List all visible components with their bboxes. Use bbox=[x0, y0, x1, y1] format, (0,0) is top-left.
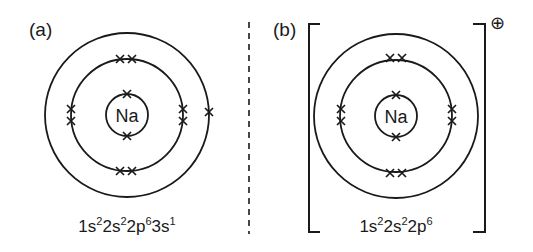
config-superscript: 2 bbox=[120, 215, 126, 227]
config-superscript: 2 bbox=[96, 215, 102, 227]
config-term: 2s bbox=[383, 217, 401, 236]
panel-a-nucleus-label: Na bbox=[115, 107, 138, 125]
electron-x-icon bbox=[386, 169, 394, 177]
config-superscript: 2 bbox=[377, 215, 383, 227]
config-term: 3s bbox=[152, 217, 170, 236]
config-term: 2p bbox=[408, 217, 427, 236]
panel-b-configuration: 1s22s22p6 bbox=[359, 218, 432, 235]
config-term: 1s bbox=[359, 217, 377, 236]
panel-a-label: (a) bbox=[29, 20, 52, 39]
config-superscript: 2 bbox=[401, 215, 407, 227]
right-bracket bbox=[473, 24, 485, 232]
panel-b-label: (b) bbox=[273, 20, 296, 39]
panel-a-configuration: 1s22s22p63s1 bbox=[78, 218, 175, 235]
config-term: 2s bbox=[102, 217, 120, 236]
panel-b-nucleus-label: Na bbox=[384, 108, 407, 126]
positive-charge-icon: ⊕ bbox=[490, 14, 505, 32]
config-superscript: 6 bbox=[145, 215, 151, 227]
electron-x-icon bbox=[398, 169, 406, 177]
config-term: 2p bbox=[127, 217, 146, 236]
config-term: 1s bbox=[78, 217, 96, 236]
config-superscript: 6 bbox=[426, 215, 432, 227]
diagram-canvas bbox=[0, 0, 533, 252]
config-superscript: 1 bbox=[170, 215, 176, 227]
